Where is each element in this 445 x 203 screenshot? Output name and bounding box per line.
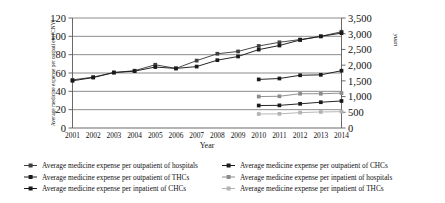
x-axis-tick-label: 2007 — [189, 131, 204, 140]
data-point-marker — [195, 65, 199, 69]
data-point-marker — [91, 76, 95, 80]
y2-axis-tick-label: 1,500 — [348, 76, 372, 87]
series-3 — [257, 69, 343, 81]
data-point-marker — [278, 104, 282, 108]
x-axis-tick-label: 2010 — [251, 131, 266, 140]
data-point-marker — [340, 31, 344, 35]
data-point-marker — [278, 44, 282, 48]
x-axis-tick-label: 2011 — [272, 131, 287, 140]
data-point-marker — [319, 34, 323, 38]
x-axis-tick-label: 2013 — [313, 131, 328, 140]
data-point-marker — [340, 91, 344, 95]
x-axis-tick-label: 2005 — [148, 131, 163, 140]
legend-label: Average medicine expense per inpatient o… — [240, 184, 384, 193]
series-5 — [257, 99, 343, 107]
x-axis-tick-label: 2004 — [127, 131, 142, 140]
legend-marker-icon — [29, 164, 33, 168]
data-point-marker — [298, 73, 302, 77]
y2-axis-ticks: 05001,0001,5002,0002,5003,0003,500 — [342, 13, 372, 134]
data-point-marker — [319, 110, 323, 114]
data-point-marker — [278, 112, 282, 116]
series-1 — [71, 30, 344, 82]
legend-label: Average medicine expense per outpatient … — [42, 173, 189, 182]
data-point-marker — [298, 92, 302, 96]
legend-label: Average medicine expense per outpatient … — [240, 161, 388, 170]
legend-item[interactable]: Average medicine expense per inpatient o… — [222, 184, 384, 193]
x-axis-tick-label: 2014 — [334, 131, 349, 140]
y-axis-tick-label: 40 — [56, 86, 67, 97]
data-point-marker — [340, 69, 344, 73]
data-point-marker — [153, 65, 157, 69]
legend-marker-icon — [227, 175, 231, 179]
data-point-marker — [319, 73, 323, 77]
legend-item[interactable]: Average medicine expense per outpatient … — [24, 173, 189, 182]
data-point-marker — [278, 77, 282, 81]
line-chart: 020406080100120 05001,0001,5002,0002,500… — [0, 0, 445, 203]
data-point-marker — [257, 112, 261, 116]
data-point-marker — [257, 95, 261, 99]
legend-item[interactable]: Average medicine expense per outpatient … — [222, 161, 388, 170]
chart-container: 020406080100120 05001,0001,5002,0002,500… — [0, 0, 445, 203]
x-axis-tick-label: 2006 — [169, 131, 184, 140]
x-axis-tick-label: 2009 — [231, 131, 246, 140]
series-6 — [257, 110, 343, 116]
x-axis-tick-label: 2002 — [86, 131, 101, 140]
y2-axis-tick-label: 3,500 — [348, 13, 372, 24]
legend-label: Average medicine expense per inpatient o… — [240, 173, 392, 182]
y2-axis-tick-label: 1,000 — [348, 91, 372, 102]
data-point-marker — [278, 40, 282, 44]
series-4 — [257, 91, 343, 98]
legend-item[interactable]: Average medicine expense per inpatient o… — [222, 173, 392, 182]
data-point-marker — [216, 52, 220, 56]
y-axis-title: Average medicine expense per outpati ent… — [50, 20, 57, 127]
legend-item[interactable]: Average medicine expense per inpatient o… — [24, 184, 186, 193]
legend-label: Average medicine expense per inpatient o… — [42, 184, 186, 193]
y2-axis-tick-label: 2,000 — [348, 60, 372, 71]
x-axis-title: Year — [200, 141, 215, 150]
data-point-marker — [298, 38, 302, 42]
x-axis-tick-label: 2003 — [106, 131, 121, 140]
data-point-marker — [257, 44, 261, 48]
data-point-marker — [133, 69, 137, 73]
data-point-marker — [278, 94, 282, 98]
y2-axis-tick-label: 500 — [348, 107, 364, 118]
legend-item[interactable]: Average medicine expense per outpatient … — [24, 161, 198, 170]
data-point-marker — [195, 59, 199, 63]
data-point-marker — [236, 50, 240, 54]
data-point-marker — [257, 48, 261, 52]
x-axis-tick-label: 2008 — [210, 131, 225, 140]
y-axis-tick-label: 80 — [56, 49, 67, 60]
data-point-marker — [236, 55, 240, 59]
data-point-marker — [340, 99, 344, 103]
data-point-marker — [112, 71, 116, 75]
y-axis-tick-label: 20 — [56, 104, 67, 115]
y2-axis-title: yuan — [393, 33, 400, 46]
y2-axis-tick-label: 3,000 — [348, 29, 372, 40]
data-point-marker — [216, 58, 220, 62]
x-axis-tick-label: 2001 — [65, 131, 80, 140]
y2-axis-tick-label: 2,500 — [348, 44, 372, 55]
legend-marker-icon — [227, 164, 231, 168]
data-point-marker — [71, 79, 75, 83]
legend: Average medicine expense per outpatient … — [24, 161, 392, 193]
data-point-marker — [174, 67, 178, 71]
data-point-marker — [257, 104, 261, 108]
y-axis-tick-label: 60 — [56, 68, 67, 79]
legend-label: Average medicine expense per outpatient … — [42, 161, 198, 170]
legend-marker-icon — [29, 187, 33, 191]
legend-marker-icon — [29, 175, 33, 179]
data-point-marker — [319, 100, 323, 104]
x-axis-tick-label: 2012 — [293, 131, 308, 140]
data-point-marker — [298, 111, 302, 115]
data-point-marker — [319, 92, 323, 96]
legend-marker-icon — [227, 187, 231, 191]
data-point-marker — [298, 102, 302, 106]
data-point-marker — [257, 78, 261, 82]
data-point-marker — [340, 110, 344, 114]
